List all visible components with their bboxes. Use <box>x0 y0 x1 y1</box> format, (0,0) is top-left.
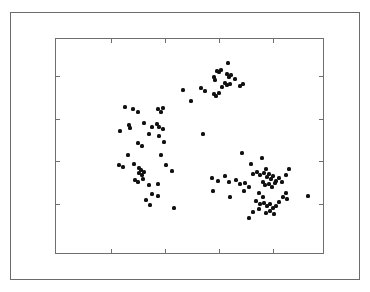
scatter-point <box>258 173 261 176</box>
scatter-point <box>210 176 213 179</box>
scatter-point <box>147 132 150 135</box>
scatter-point <box>249 162 252 165</box>
scatter-point <box>159 153 162 156</box>
scatter-point <box>128 126 131 129</box>
scatter-point <box>140 173 143 176</box>
scatter-point <box>265 175 268 178</box>
scatter-point <box>162 140 165 143</box>
scatter-point <box>281 195 284 198</box>
scatter-point <box>201 132 204 135</box>
scatter-point <box>123 105 126 108</box>
scatter-point <box>136 180 139 183</box>
scatter-point <box>273 181 276 184</box>
scatter-point <box>213 78 216 81</box>
scatter-point <box>136 110 139 113</box>
scatter-point <box>284 173 287 176</box>
plot-axes-box <box>55 38 324 254</box>
scatter-point <box>172 206 175 209</box>
scatter-point <box>263 183 266 186</box>
scatter-point <box>243 181 246 184</box>
scatter-point <box>247 216 250 219</box>
scatter-point <box>277 200 280 203</box>
scatter-point <box>150 192 153 195</box>
scatter-point <box>287 167 290 170</box>
scatter-point <box>284 191 287 194</box>
scatter-point <box>214 94 217 97</box>
scatter-point <box>126 153 129 156</box>
scatter-point <box>268 209 271 212</box>
scatter-points-layer <box>56 39 323 253</box>
scatter-point <box>254 199 257 202</box>
scatter-point <box>132 162 135 165</box>
scatter-point <box>140 144 143 147</box>
scatter-point <box>164 163 167 166</box>
scatter-point <box>264 211 267 214</box>
scatter-point <box>156 182 159 185</box>
scatter-point <box>247 185 250 188</box>
scatter-point <box>199 86 202 89</box>
scatter-point <box>228 82 231 85</box>
scatter-point <box>267 172 270 175</box>
scatter-point <box>211 189 214 192</box>
scatter-point <box>223 174 226 177</box>
scatter-point <box>271 174 274 177</box>
scatter-point <box>242 189 245 192</box>
scatter-point <box>203 89 206 92</box>
scatter-point <box>261 195 264 198</box>
scatter-point <box>144 198 147 201</box>
scatter-point <box>131 107 134 110</box>
scatter-point <box>170 169 173 172</box>
scatter-point <box>219 68 222 71</box>
scatter-point <box>161 127 164 130</box>
scatter-point <box>258 202 261 205</box>
scatter-point <box>257 191 260 194</box>
scatter-plot-figure <box>0 0 370 292</box>
scatter-point <box>269 177 272 180</box>
scatter-point <box>161 106 164 109</box>
scatter-point <box>157 125 160 128</box>
scatter-point <box>227 180 230 183</box>
scatter-point <box>264 167 267 170</box>
scatter-point <box>270 185 273 188</box>
scatter-point <box>260 156 263 159</box>
scatter-point <box>238 182 241 185</box>
scatter-point <box>117 163 120 166</box>
scatter-point <box>148 203 151 206</box>
scatter-point <box>150 125 153 128</box>
scatter-point <box>272 212 275 215</box>
scatter-point <box>147 183 150 186</box>
scatter-point <box>251 172 254 175</box>
scatter-point <box>257 207 260 210</box>
scatter-point <box>156 194 159 197</box>
scatter-point <box>226 61 229 64</box>
scatter-point <box>189 99 192 102</box>
scatter-point <box>277 176 280 179</box>
scatter-point <box>220 85 223 88</box>
scatter-point <box>280 180 283 183</box>
scatter-point <box>136 141 139 144</box>
scatter-point <box>262 171 265 174</box>
scatter-point <box>159 110 162 113</box>
scatter-point <box>241 82 244 85</box>
scatter-point <box>234 178 237 181</box>
scatter-point <box>216 179 219 182</box>
scatter-point <box>157 134 160 137</box>
scatter-point <box>233 77 236 80</box>
scatter-point <box>142 121 145 124</box>
scatter-point <box>228 195 231 198</box>
scatter-point <box>118 129 121 132</box>
scatter-point <box>142 170 145 173</box>
scatter-point <box>274 204 277 207</box>
scatter-point <box>141 177 144 180</box>
scatter-point <box>251 210 254 213</box>
scatter-point <box>121 165 124 168</box>
scatter-point <box>217 91 220 94</box>
scatter-point <box>285 197 288 200</box>
scatter-point <box>268 202 271 205</box>
scatter-point <box>229 73 232 76</box>
scatter-point <box>181 88 184 91</box>
scatter-point <box>306 194 309 197</box>
scatter-point <box>240 151 243 154</box>
